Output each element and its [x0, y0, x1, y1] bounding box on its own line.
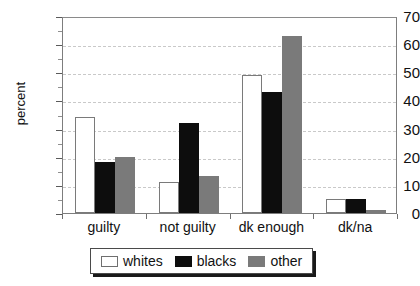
x-tick-label-dk-enough: dk enough — [230, 219, 314, 235]
legend-entry-whites[interactable]: whites — [101, 254, 163, 268]
bar-chart-figure: percent 010203040506070 guiltynot guilty… — [0, 0, 420, 286]
bar-other-dk-na — [366, 210, 386, 213]
bar-blacks-not-guilty — [179, 123, 199, 213]
gridline-30 — [63, 131, 396, 132]
bar-whites-dk-na — [326, 199, 346, 213]
bar-other-not-guilty — [199, 176, 219, 213]
x-tick-4 — [397, 214, 398, 219]
gridline-60 — [63, 46, 396, 47]
bar-blacks-dk-na — [346, 199, 366, 213]
gridline-20 — [63, 159, 396, 160]
legend-swatch-other-icon — [248, 256, 265, 267]
bar-other-guilty — [115, 157, 135, 213]
gridline-50 — [63, 74, 396, 75]
legend-label-blacks: blacks — [197, 254, 237, 268]
legend-swatch-blacks-icon — [175, 256, 192, 267]
gridline-40 — [63, 102, 396, 103]
legend-entry-other[interactable]: other — [248, 254, 302, 268]
bar-whites-dk-enough — [242, 75, 262, 213]
bar-blacks-dk-enough — [262, 92, 282, 213]
legend-swatch-whites-icon — [101, 256, 118, 267]
x-tick-label-dk-na: dk/na — [313, 219, 397, 235]
bar-other-dk-enough — [282, 36, 302, 213]
bar-whites-not-guilty — [159, 182, 179, 213]
x-tick-label-not-guilty: not guilty — [146, 219, 230, 235]
x-tick-label-guilty: guilty — [62, 219, 146, 235]
legend-label-other: other — [270, 254, 302, 268]
legend-label-whites: whites — [123, 254, 163, 268]
bar-blacks-guilty — [95, 162, 115, 213]
plot-area — [62, 17, 397, 214]
legend-entry-blacks[interactable]: blacks — [175, 254, 237, 268]
bar-whites-guilty — [75, 117, 95, 213]
y-axis-title: percent — [13, 54, 28, 154]
chart-legend: whitesblacksother — [90, 248, 313, 274]
